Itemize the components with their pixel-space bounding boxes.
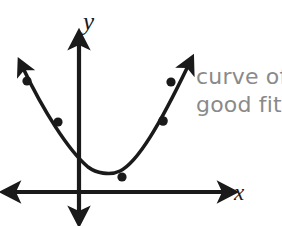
data-point (53, 117, 62, 126)
curve-annotation: curve of good fit (196, 64, 282, 117)
figure-canvas: y x curve of good fit (0, 0, 282, 226)
data-point (166, 77, 175, 86)
data-point (117, 172, 126, 181)
data-point (22, 76, 31, 85)
graph-svg: y x curve of good fit (0, 0, 282, 226)
y-axis-label: y (80, 8, 95, 35)
data-points (22, 76, 175, 181)
annotation-line-2: good fit (196, 92, 282, 117)
data-point (158, 116, 168, 126)
x-axis-label: x (233, 180, 245, 205)
annotation-line-1: curve of (196, 64, 282, 89)
